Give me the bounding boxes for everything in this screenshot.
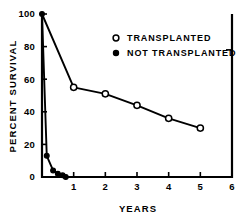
series-line <box>42 14 66 177</box>
legend-item: NOT TRANSPLANTED <box>113 48 236 58</box>
data-point <box>55 171 60 176</box>
y-axis-title: PERCENT SURVIVAL <box>7 40 18 153</box>
data-point <box>63 175 68 180</box>
x-tick-label: 2 <box>103 181 108 192</box>
x-axis-ticks <box>74 50 232 177</box>
legend-marker-open-circle-icon <box>113 35 119 41</box>
data-point <box>44 153 49 158</box>
series-1 <box>42 14 203 131</box>
x-axis-title: YEARS <box>119 203 157 214</box>
data-point <box>102 91 108 97</box>
series-line <box>42 14 200 128</box>
legend-label: NOT TRANSPLANTED <box>127 48 236 58</box>
legend-marker-filled-circle-icon <box>113 50 118 55</box>
x-tick-label: 6 <box>229 181 234 192</box>
x-tick-label: 4 <box>166 181 172 192</box>
y-tick-label: 100 <box>19 8 35 19</box>
survival-chart: 020406080100 123456 PERCENT SURVIVAL YEA… <box>0 0 246 219</box>
data-point <box>166 115 172 121</box>
data-point <box>51 168 56 173</box>
data-point <box>71 84 77 90</box>
legend-label: TRANSPLANTED <box>127 33 211 43</box>
y-tick-label: 0 <box>30 171 35 182</box>
y-tick-label: 80 <box>24 41 35 52</box>
y-axis-tick-labels: 020406080100 <box>19 8 35 182</box>
data-point <box>134 102 140 108</box>
y-tick-label: 20 <box>24 139 35 150</box>
data-point <box>40 12 45 17</box>
series-2 <box>40 12 69 180</box>
data-point <box>197 125 203 131</box>
x-tick-label: 1 <box>71 181 77 192</box>
chart-container: 020406080100 123456 PERCENT SURVIVAL YEA… <box>0 0 246 219</box>
y-tick-label: 60 <box>24 74 35 85</box>
chart-legend: TRANSPLANTEDNOT TRANSPLANTED <box>113 33 236 58</box>
x-tick-label: 3 <box>134 181 139 192</box>
y-tick-label: 40 <box>24 106 35 117</box>
x-tick-label: 5 <box>198 181 204 192</box>
legend-item: TRANSPLANTED <box>113 33 211 43</box>
x-axis-tick-labels: 123456 <box>71 181 235 192</box>
